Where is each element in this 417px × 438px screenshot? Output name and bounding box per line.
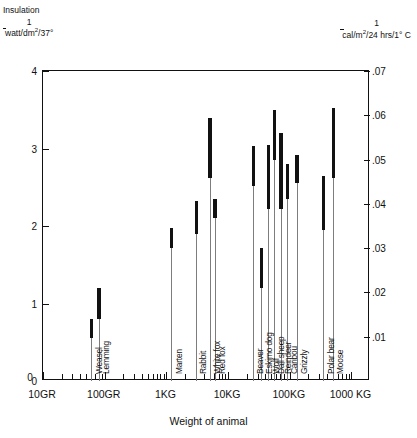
- animal-label: Marten: [174, 349, 184, 374]
- y-axis-label-right: .03: [372, 243, 402, 254]
- left-unit-denominator: watt/dm2/37°: [3, 27, 55, 38]
- y-axis-label-right: .05: [372, 154, 402, 165]
- data-range-bar[interactable]: [260, 248, 263, 288]
- data-range-bar[interactable]: [97, 288, 100, 319]
- y-axis-tick-right: [364, 337, 370, 338]
- data-range-bar[interactable]: [90, 319, 93, 338]
- x-axis-minor-tick: [247, 374, 248, 379]
- x-axis-label: 1KG: [155, 388, 176, 400]
- data-range-bar[interactable]: [252, 146, 255, 186]
- y-axis-tick-right: [364, 115, 370, 116]
- y-axis-label-left: 2: [7, 221, 37, 232]
- x-axis-minor-tick: [271, 374, 272, 379]
- animal-label: Grizzly: [299, 350, 309, 374]
- x-axis-minor-tick: [185, 374, 186, 379]
- data-leader-line: [210, 178, 211, 381]
- y-axis-tick-right: [364, 248, 370, 249]
- x-axis-minor-tick: [346, 374, 347, 379]
- x-axis-minor-tick: [160, 374, 161, 379]
- x-axis-minor-tick: [80, 374, 81, 379]
- x-axis-minor-tick: [72, 374, 73, 379]
- data-range-bar[interactable]: [295, 155, 298, 184]
- y-axis-tick-right: [364, 204, 370, 205]
- x-axis-title: Weight of animal: [0, 415, 417, 427]
- x-axis-decade-tick: [43, 372, 44, 379]
- x-axis-minor-tick: [276, 374, 277, 379]
- y-axis-tick-right: [364, 292, 370, 293]
- data-leader-line: [91, 338, 92, 381]
- right-fraction-rule: [340, 29, 343, 30]
- data-leader-line: [253, 186, 254, 381]
- x-axis-minor-tick: [134, 374, 135, 379]
- data-leader-line: [323, 230, 324, 381]
- x-axis-minor-tick: [349, 374, 350, 379]
- x-axis-minor-tick: [204, 374, 205, 379]
- data-range-bar[interactable]: [170, 228, 173, 247]
- animal-label: Caribou: [289, 346, 299, 374]
- x-axis-minor-tick: [342, 374, 343, 379]
- data-leader-line: [171, 248, 172, 381]
- animal-label: Polar bear: [326, 337, 336, 374]
- x-axis-minor-tick: [102, 374, 103, 379]
- x-axis-minor-tick: [327, 374, 328, 379]
- data-range-bar[interactable]: [332, 108, 335, 178]
- left-unit-fraction: 1 watt/dm2/37°: [3, 17, 55, 39]
- right-unit-fraction: 1 cal/m2/24 hrs/1° C: [340, 18, 413, 40]
- data-leader-line: [196, 234, 197, 381]
- data-range-bar[interactable]: [208, 118, 211, 178]
- data-range-bar[interactable]: [273, 110, 276, 160]
- x-axis-minor-tick: [222, 374, 223, 379]
- x-axis-decade-tick: [351, 372, 352, 379]
- left-fraction-rule: [3, 28, 6, 29]
- y-axis-label-left: 1: [7, 298, 37, 309]
- x-axis-minor-tick: [308, 374, 309, 379]
- y-axis-tick-left: [43, 226, 49, 227]
- x-axis-minor-tick: [62, 374, 63, 379]
- chart-plot-area: 01234.01.02.03.04.05.06.07: [42, 70, 369, 380]
- data-range-bar[interactable]: [286, 164, 289, 199]
- x-axis-minor-tick: [219, 374, 220, 379]
- x-axis-minor-tick: [123, 374, 124, 379]
- animal-label: Lemming: [101, 341, 111, 374]
- animal-label: Rabbit: [198, 351, 208, 374]
- animal-label: Red fox: [217, 347, 227, 374]
- x-axis-minor-tick: [142, 374, 143, 379]
- y-axis-label-right: .04: [372, 198, 402, 209]
- animal-label: Moose: [335, 350, 345, 374]
- x-axis-minor-tick: [95, 374, 96, 379]
- x-axis-label: 100KG: [272, 388, 305, 400]
- y-axis-label-right: .07: [372, 66, 402, 77]
- y-axis-tick-left: [43, 149, 49, 150]
- y-axis-label-left: 4: [7, 66, 37, 77]
- x-axis-label: 10GR: [28, 388, 55, 400]
- origin-zero-label: 0: [27, 372, 33, 383]
- y-axis-tick-right: [364, 71, 370, 72]
- data-range-bar[interactable]: [195, 201, 198, 234]
- right-axis-unit-header: 1 cal/m2/24 hrs/1° C: [340, 18, 413, 40]
- right-unit-numerator: 1: [340, 18, 413, 29]
- x-axis-minor-tick: [338, 374, 339, 379]
- x-axis-minor-tick: [157, 374, 158, 379]
- x-axis-minor-tick: [148, 374, 149, 379]
- x-axis-minor-tick: [319, 374, 320, 379]
- data-range-bar[interactable]: [267, 145, 270, 209]
- y-axis-label-right: .06: [372, 110, 402, 121]
- right-unit-denominator: cal/m2/24 hrs/1° C: [340, 29, 413, 40]
- left-unit-numerator: 1: [3, 17, 55, 28]
- insulation-title: Insulation: [3, 5, 55, 16]
- x-axis-minor-tick: [265, 374, 266, 379]
- x-axis-label: 100GR: [87, 388, 120, 400]
- x-axis-minor-tick: [284, 374, 285, 379]
- data-range-bar[interactable]: [322, 176, 325, 230]
- data-range-bar[interactable]: [279, 133, 282, 209]
- x-axis-label: 1000 KG: [330, 388, 371, 400]
- left-axis-unit-header: Insulation 1 watt/dm2/37°: [3, 5, 55, 39]
- data-range-bar[interactable]: [213, 199, 216, 218]
- x-axis-minor-tick: [86, 374, 87, 379]
- y-axis-label-right: .01: [372, 331, 402, 342]
- x-axis-decade-tick: [228, 372, 229, 379]
- y-axis-label-right: .02: [372, 287, 402, 298]
- x-axis-minor-tick: [225, 374, 226, 379]
- x-axis-decade-tick: [166, 372, 167, 379]
- x-axis-minor-tick: [153, 374, 154, 379]
